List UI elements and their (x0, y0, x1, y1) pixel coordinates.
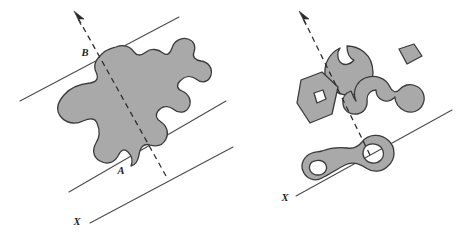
label-x-right: X (280, 192, 289, 203)
peanut-with-two-holes (302, 135, 394, 179)
label-x-left: X (72, 216, 81, 227)
diagram-canvas: B A X X (0, 0, 463, 238)
figure-container: B A X X (0, 0, 463, 238)
arrow-head-icon (74, 11, 84, 25)
label-b: B (80, 47, 88, 58)
right-panel: X (280, 11, 452, 203)
arrow-head-icon-right (299, 11, 309, 25)
left-panel: B A X (20, 11, 233, 227)
small-quadrilateral (399, 44, 422, 64)
label-a: A (116, 165, 124, 176)
